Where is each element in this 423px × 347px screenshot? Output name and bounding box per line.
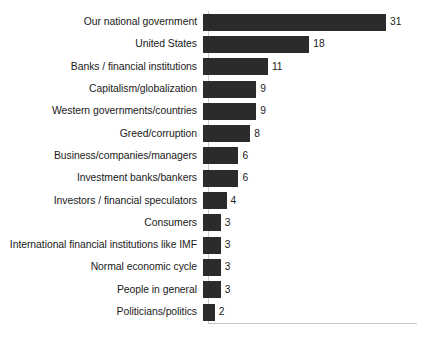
- bar: [203, 170, 238, 187]
- bar-category-label: Banks / financial institutions: [0, 61, 203, 73]
- bar: [203, 58, 268, 75]
- bar-row: Capitalism/globalization9: [0, 78, 423, 100]
- bar-row: Normal economic cycle3: [0, 256, 423, 278]
- bar-value-label: 4: [231, 195, 237, 207]
- bar-category-label: Investment banks/bankers: [0, 172, 203, 184]
- bar-category-label: Our national government: [0, 16, 203, 28]
- bar-row: People in general3: [0, 279, 423, 301]
- bar-category-label: Western governments/countries: [0, 105, 203, 117]
- bar-category-label: Greed/corruption: [0, 128, 203, 140]
- bar-value-label: 3: [225, 239, 231, 251]
- bar: [203, 125, 250, 142]
- bar-track: 6: [203, 145, 423, 167]
- bar: [203, 103, 256, 120]
- bar-track: 9: [203, 78, 423, 100]
- bar-row: International financial institutions lik…: [0, 234, 423, 256]
- bar-value-label: 8: [254, 128, 260, 140]
- bar-category-label: International financial institutions lik…: [0, 239, 203, 251]
- clipped-title-text: [0, 0, 423, 3]
- bar-category-label: Consumers: [0, 217, 203, 229]
- bar-track: 31: [203, 11, 423, 33]
- bar-value-label: 11: [272, 61, 283, 73]
- bar-value-label: 6: [242, 150, 248, 162]
- bar-row: Consumers3: [0, 212, 423, 234]
- bar-track: 3: [203, 212, 423, 234]
- bar-value-label: 9: [260, 83, 266, 95]
- bar-value-label: 18: [313, 38, 324, 50]
- bar-value-label: 3: [225, 261, 231, 273]
- bar: [203, 281, 221, 298]
- bar: [203, 81, 256, 98]
- bar-value-label: 31: [390, 16, 401, 28]
- bar: [203, 192, 227, 209]
- bar-track: 18: [203, 33, 423, 55]
- bar-track: 3: [203, 256, 423, 278]
- bar: [203, 304, 215, 321]
- value-axis-baseline: [208, 323, 417, 324]
- bar-value-label: 2: [219, 306, 225, 318]
- bar-value-label: 9: [260, 105, 266, 117]
- bar-track: 9: [203, 100, 423, 122]
- bar: [203, 147, 238, 164]
- plot-area: Our national government31United States18…: [0, 11, 423, 323]
- bar-row: Business/companies/managers6: [0, 145, 423, 167]
- bar-row: Politicians/politics2: [0, 301, 423, 323]
- bar-track: 4: [203, 189, 423, 211]
- bar-track: 6: [203, 167, 423, 189]
- bar-category-label: People in general: [0, 284, 203, 296]
- bar-track: 2: [203, 301, 423, 323]
- bar: [203, 214, 221, 231]
- bar-row: Investors / financial speculators4: [0, 189, 423, 211]
- bar-value-label: 3: [225, 284, 231, 296]
- horizontal-bar-chart: Our national government31United States18…: [0, 0, 423, 347]
- bar: [203, 36, 309, 53]
- bar: [203, 237, 221, 254]
- bar-category-label: Capitalism/globalization: [0, 83, 203, 95]
- bar-category-label: United States: [0, 38, 203, 50]
- bar-row: Western governments/countries9: [0, 100, 423, 122]
- bar-category-label: Investors / financial speculators: [0, 195, 203, 207]
- bar: [203, 14, 386, 31]
- bar-row: Banks / financial institutions11: [0, 56, 423, 78]
- bar-track: 3: [203, 234, 423, 256]
- bar-track: 3: [203, 279, 423, 301]
- bar: [203, 259, 221, 276]
- bar-category-label: Normal economic cycle: [0, 261, 203, 273]
- bar-value-label: 6: [242, 172, 248, 184]
- bar-category-label: Business/companies/managers: [0, 150, 203, 162]
- bar-track: 11: [203, 56, 423, 78]
- bar-category-label: Politicians/politics: [0, 306, 203, 318]
- bar-row: Greed/corruption8: [0, 122, 423, 144]
- bar-value-label: 3: [225, 217, 231, 229]
- bar-row: United States18: [0, 33, 423, 55]
- bar-row: Investment banks/bankers6: [0, 167, 423, 189]
- bar-track: 8: [203, 122, 423, 144]
- bar-row: Our national government31: [0, 11, 423, 33]
